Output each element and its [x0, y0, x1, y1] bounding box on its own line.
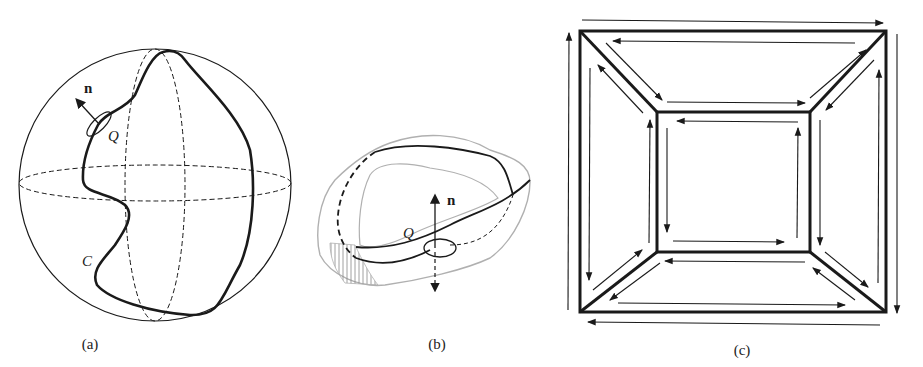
surface-diagram: n Q: [290, 0, 560, 367]
label-c: C: [82, 253, 93, 269]
panel-a: n Q C (a): [0, 0, 300, 367]
label-q: Q: [403, 225, 414, 241]
caption-a: (a): [70, 336, 110, 353]
label-n: n: [84, 80, 93, 96]
caption-b: (b): [417, 336, 457, 353]
label-n: n: [447, 192, 456, 208]
boundary-front-bottom: [356, 250, 430, 263]
sphere-outline: [19, 49, 291, 321]
loop-q: [424, 239, 456, 257]
orientation-diagram: [540, 0, 923, 367]
hatched-region: [330, 243, 378, 285]
label-q: Q: [108, 128, 119, 144]
boundary-front-top: [356, 180, 530, 248]
orientation-arrows: [568, 20, 897, 325]
caption-c: (c): [722, 342, 762, 359]
boundary-dashed-left: [338, 152, 375, 258]
frame: [580, 31, 886, 312]
panel-c: (c): [540, 0, 923, 367]
meridian: [125, 49, 185, 321]
panel-b: n Q (b): [290, 0, 560, 367]
sphere-diagram: n Q C: [0, 0, 300, 367]
normal-arrow: [77, 100, 99, 124]
curve-c: [83, 51, 253, 315]
equator: [19, 165, 291, 201]
